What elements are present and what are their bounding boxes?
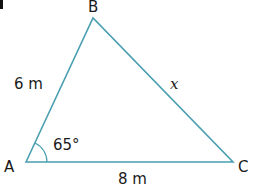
angle-arc-a	[35, 143, 47, 162]
angle-label-a: 65°	[53, 136, 80, 154]
vertex-label-b: B	[88, 0, 98, 16]
side-label-ab: 6 m	[14, 75, 43, 93]
side-label-ac: 8 m	[118, 170, 147, 188]
vertex-label-c: C	[238, 158, 248, 176]
triangle-diagram: B A C 6 m 8 m x 65°	[0, 0, 253, 188]
corner-mark	[0, 0, 3, 9]
side-label-bc: x	[170, 75, 179, 93]
vertex-label-a: A	[4, 158, 15, 176]
